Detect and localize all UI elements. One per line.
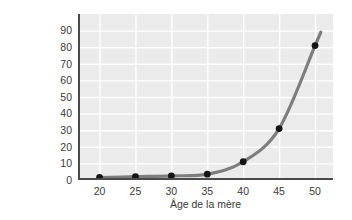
data-point-marker xyxy=(276,125,283,132)
x-tick-label: 50 xyxy=(309,186,321,197)
x-tick-label: 45 xyxy=(273,186,285,197)
x-tick-label: 25 xyxy=(130,186,142,197)
chart-canvas xyxy=(78,14,333,180)
x-tick-label: 20 xyxy=(94,186,106,197)
x-tick-label: 40 xyxy=(237,186,249,197)
x-tick-label: 35 xyxy=(201,186,213,197)
x-axis-title: Âge de la mère xyxy=(78,199,333,210)
x-tick-label: 30 xyxy=(166,186,178,197)
data-point-marker xyxy=(312,42,319,49)
chart-figure: Enfants trisomiques (sur 1000 naissances… xyxy=(0,0,352,220)
data-point-marker xyxy=(240,158,247,165)
data-point-marker xyxy=(204,171,211,178)
plot-area xyxy=(78,14,333,180)
